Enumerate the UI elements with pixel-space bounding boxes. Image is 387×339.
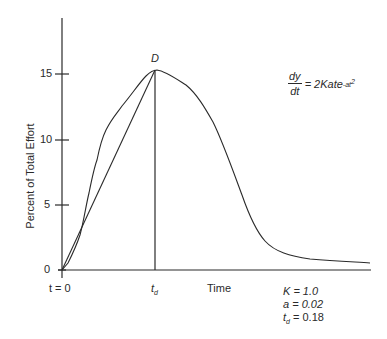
formula-fraction: dy dt [288,70,302,97]
parameters-block: K = 1.0 a = 0.02 td = 0.18 [283,285,324,328]
y-tick-label-10: 10 [40,134,52,145]
formula-exponent: -at2 [343,78,355,88]
y-tick-label-5: 5 [44,199,50,210]
y-tick-label-0: 0 [44,264,50,275]
formula-numerator: dy [288,70,302,84]
x-label-t0: t = 0 [49,283,71,294]
formula-denominator: dt [290,84,299,97]
param-td-value: = 0.18 [290,311,324,323]
formula-rhs: = 2Kate [305,78,343,90]
td-sub: d [154,289,158,296]
param-k: K = 1.0 [283,285,324,298]
x-label-td: td [151,283,158,296]
formula-exponent-base: -at [343,82,351,89]
param-a: a = 0.02 [283,298,324,311]
secant-line [62,70,155,270]
peak-label-d: D [151,53,159,64]
y-tick-label-15: 15 [40,68,52,79]
y-axis-label: Percent of Total Effort [24,106,36,246]
rate-formula: dy dt = 2Kate-at2 [288,70,355,97]
param-td: td = 0.18 [283,311,324,328]
x-axis-label: Time [207,283,231,294]
rayleigh-chart: 15 10 5 0 Percent of Total Effort D t = … [0,0,387,339]
formula-exponent-power: 2 [351,78,355,85]
